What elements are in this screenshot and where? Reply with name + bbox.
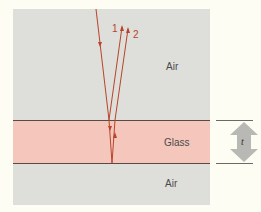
ray-1: [109, 27, 122, 120]
refracted-down-arrow-icon: [108, 126, 112, 131]
thickness-double-arrow-icon: [230, 122, 258, 162]
ray-diagram: [0, 0, 261, 212]
ray-2-arrow-icon: [126, 27, 130, 33]
glass-label: Glass: [164, 137, 190, 148]
thickness-label: t: [241, 136, 244, 147]
ray-2: [112, 29, 128, 163]
air-bottom-label: Air: [165, 178, 177, 189]
ray-2-label: 2: [133, 29, 139, 40]
ray-1-arrow-icon: [120, 25, 124, 31]
incident-ray: [96, 9, 112, 163]
incident-arrow-icon: [98, 42, 102, 47]
air-top-label: Air: [166, 61, 178, 72]
ray-1-label: 1: [112, 23, 118, 34]
